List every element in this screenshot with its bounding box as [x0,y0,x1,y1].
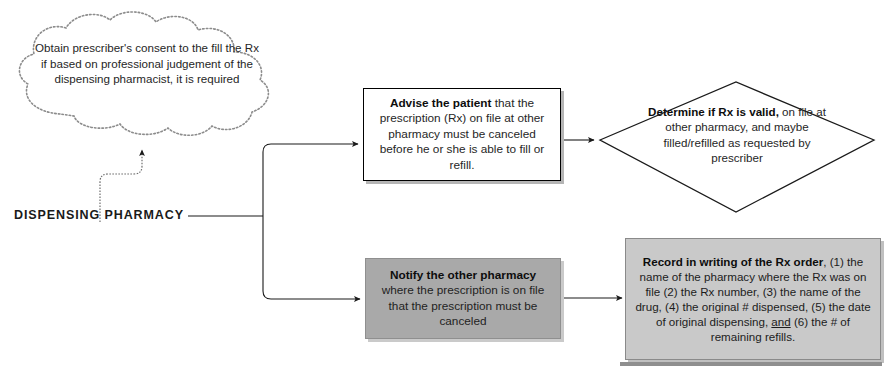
connector-root-to-notify [263,216,360,299]
node-record-in-writing-of-rx-order: Record in writing of the Rx order, (1) t… [625,238,881,360]
root-node-dispensing-pharmacy: DISPENSING PHARMACY [14,208,184,222]
decision-node-emphasis: Determine if Rx is valid, [648,105,779,118]
cloud-node-text: Obtain prescriber's consent to the fill … [34,40,260,87]
notify-node-emphasis: Notify the other pharmacy [390,268,536,282]
page-bottom-rule [620,362,882,366]
node-notify-the-other-pharmacy: Notify the other pharmacy where the pres… [365,258,561,339]
notify-node-text: Notify the other pharmacy where the pres… [373,268,553,330]
record-node-underlined: and [771,315,790,328]
node-determine-if-rx-is-valid: Determine if Rx is valid, on file at oth… [596,78,878,216]
flowchart-canvas: DISPENSING PHARMACY Obtain prescriber's … [0,0,889,374]
record-node-emphasis: Record in writing of the Rx order [643,255,823,268]
node-advise-the-patient: Advise the patient that the prescription… [363,88,561,181]
advise-node-emphasis: Advise the patient [390,96,492,110]
node-obtain-prescriber-consent: Obtain prescriber's consent to the fill … [8,8,286,140]
notify-node-rest: where the prescription is on file that t… [382,283,545,328]
record-node-text: Record in writing of the Rx order, (1) t… [633,254,873,344]
connector-root-to-advise [263,144,358,216]
decision-node-text: Determine if Rx is valid, on file at oth… [637,104,837,165]
advise-node-text: Advise the patient that the prescription… [371,96,553,173]
